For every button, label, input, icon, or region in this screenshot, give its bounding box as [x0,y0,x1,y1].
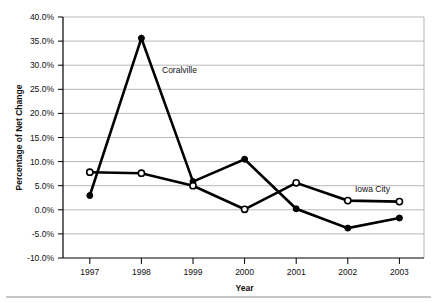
y-tick-label: 30.0% [30,60,55,70]
chart-background [0,0,437,302]
y-tick-label: -10.0% [27,253,54,263]
x-tick-label: 2001 [287,267,306,277]
y-tick-label: 35.0% [30,36,55,46]
data-point [293,180,299,186]
y-tick-label: 0.0% [35,205,55,215]
data-point [396,215,402,221]
data-point [138,170,144,176]
data-point [190,183,196,189]
y-axis-title: Percentage of Net Change [14,84,24,190]
x-tick-label: 2003 [390,267,409,277]
x-tick-label: 2002 [338,267,357,277]
chart-figure: 40.0% 35.0% 30.0% 25.0% 20.0% 15.0% 10.0… [0,0,437,302]
line-chart: 40.0% 35.0% 30.0% 25.0% 20.0% 15.0% 10.0… [0,0,437,302]
x-tick-label: 1997 [80,267,99,277]
data-point [293,206,299,212]
y-tick-label: 10.0% [30,157,55,167]
y-tick-label: 40.0% [30,12,55,22]
data-point [345,198,351,204]
y-tick-label: 25.0% [30,84,55,94]
series-label-coralville: Coralville [162,65,197,75]
y-tick-label: 20.0% [30,108,55,118]
data-point [242,156,248,162]
data-point [396,199,402,205]
data-point [138,35,144,41]
x-axis-title: Year [236,283,255,293]
data-point [87,169,93,175]
x-tick-label: 1999 [184,267,203,277]
y-tick-label: -5.0% [32,229,55,239]
y-tick-label: 5.0% [35,181,55,191]
series-label-iowa-city: Iowa City [355,184,391,194]
x-tick-label: 2000 [235,267,254,277]
data-point [87,193,93,199]
y-tick-label: 15.0% [30,133,55,143]
data-point [345,225,351,231]
x-tick-label: 1998 [132,267,151,277]
data-point [242,206,248,212]
